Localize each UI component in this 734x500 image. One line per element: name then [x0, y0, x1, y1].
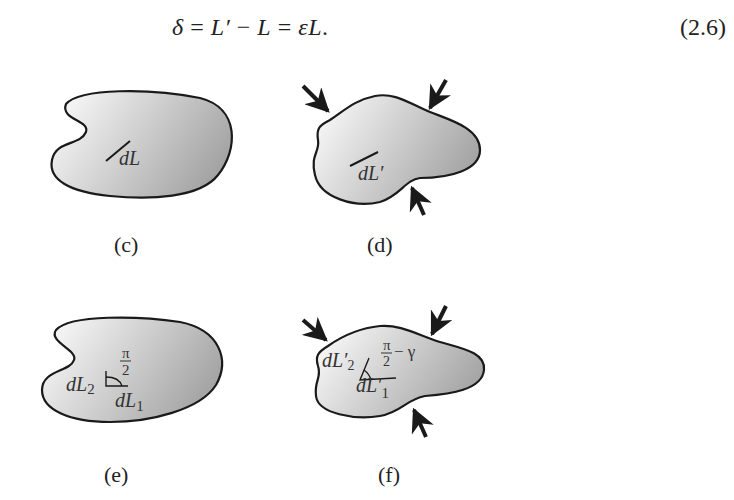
angle-two: 2	[383, 354, 390, 369]
body-shape-f	[316, 326, 484, 417]
figure-e: dL2 dL1 π 2	[42, 318, 222, 422]
body-shape-d	[314, 95, 480, 204]
caption-e: (e)	[104, 462, 128, 488]
label-dL-prime: dL′	[358, 162, 384, 184]
load-arrow-icon	[412, 188, 424, 215]
angle-pi: π	[383, 337, 391, 353]
load-arrow-icon	[430, 80, 446, 108]
figure-f: dL′2 dL′1 π 2 − γ	[303, 306, 484, 437]
figure-d: dL′	[303, 80, 480, 215]
angle-pi: π	[122, 345, 130, 361]
label-dL: dL	[119, 147, 140, 169]
caption-f: (f)	[378, 462, 400, 488]
body-shape-c	[52, 91, 232, 198]
load-arrow-icon	[414, 410, 426, 437]
load-arrow-icon	[303, 320, 326, 340]
load-arrow-icon	[303, 86, 328, 111]
figure-c: dL	[52, 91, 232, 198]
caption-c: (c)	[114, 232, 138, 258]
angle-minus-gamma: − γ	[394, 342, 416, 361]
load-arrow-icon	[432, 306, 446, 334]
caption-d: (d)	[367, 232, 393, 258]
angle-two: 2	[122, 362, 130, 378]
